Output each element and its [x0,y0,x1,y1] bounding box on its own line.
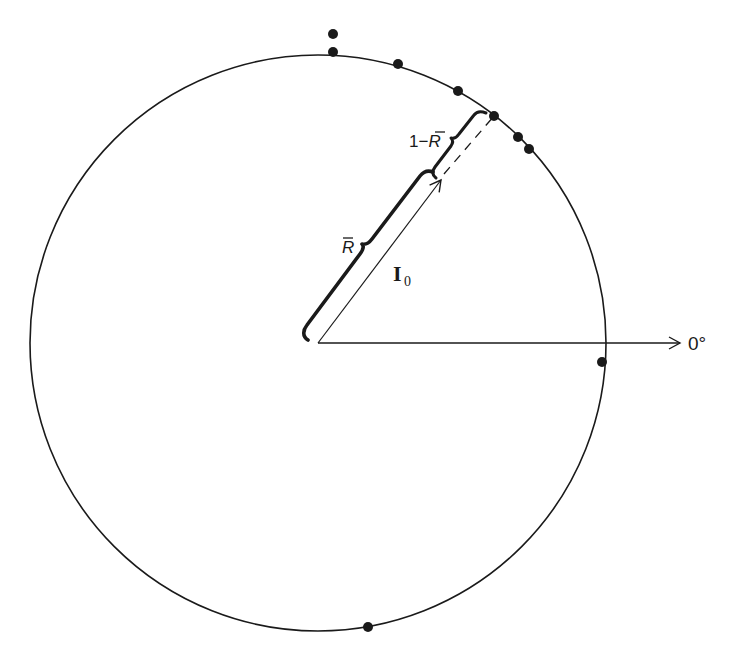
circular-diagram: 0° I 0 R 1−R [0,0,735,659]
data-point [393,59,403,69]
zero-degree-label: 0° [688,333,706,354]
data-point [524,144,534,154]
data-point [328,47,338,57]
data-point [489,111,499,121]
data-point [328,29,338,39]
data-point [363,622,373,632]
one-minus-r-bar-label: 1−R [409,132,441,151]
mean-vector-subscript: 0 [404,274,411,289]
mean-vector-arrow [318,180,441,343]
data-point [513,132,523,142]
one-minus-r-bar-brace [433,112,486,178]
data-point [597,357,607,367]
r-bar-brace [304,171,433,340]
mean-vector-label: I [393,261,402,286]
r-bar-label: R [342,238,354,257]
data-point [453,86,463,96]
data-points [328,29,607,632]
